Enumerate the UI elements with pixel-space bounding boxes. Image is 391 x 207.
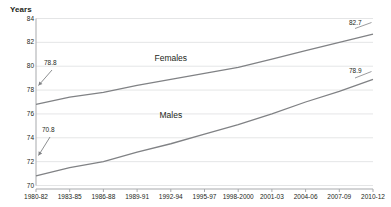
data-label-females-end: 82.7: [349, 20, 362, 27]
data-label-males-end: 78.9: [349, 68, 362, 75]
data-annotations: 78.882.770.878.9FemalesMales: [0, 0, 391, 207]
series-label-males: Males: [159, 111, 182, 120]
data-label-males-start: 70.8: [42, 127, 55, 134]
series-label-females: Females: [155, 54, 188, 63]
data-label-females-start: 78.8: [44, 60, 57, 67]
life-expectancy-line-chart: Years 7072747678808284 1980-821983-85198…: [0, 0, 391, 207]
